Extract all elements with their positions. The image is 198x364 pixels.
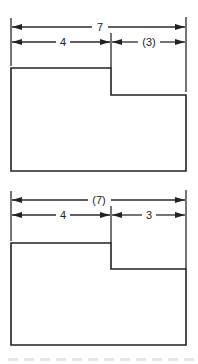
dimensioned-drawing-bottom: (7) 4 3 bbox=[0, 174, 198, 356]
part-outline-top bbox=[11, 68, 186, 171]
part-outline-bottom bbox=[11, 243, 186, 345]
dimension-label-segment-left: 4 bbox=[60, 209, 66, 221]
drawing-canvas-bottom: (7) 4 3 bbox=[0, 174, 198, 356]
drawing-canvas-top: 7 4 (3) bbox=[0, 0, 198, 182]
cropped-caption bbox=[8, 358, 194, 361]
dimension-label-segment-right: 3 bbox=[146, 209, 152, 221]
dimension-label-overall: 7 bbox=[97, 21, 103, 33]
dimensioned-drawing-top: 7 4 (3) bbox=[0, 0, 198, 182]
dimension-label-segment-right: (3) bbox=[142, 36, 155, 48]
dimension-label-segment-left: 4 bbox=[60, 36, 66, 48]
dimension-label-overall: (7) bbox=[92, 194, 105, 206]
